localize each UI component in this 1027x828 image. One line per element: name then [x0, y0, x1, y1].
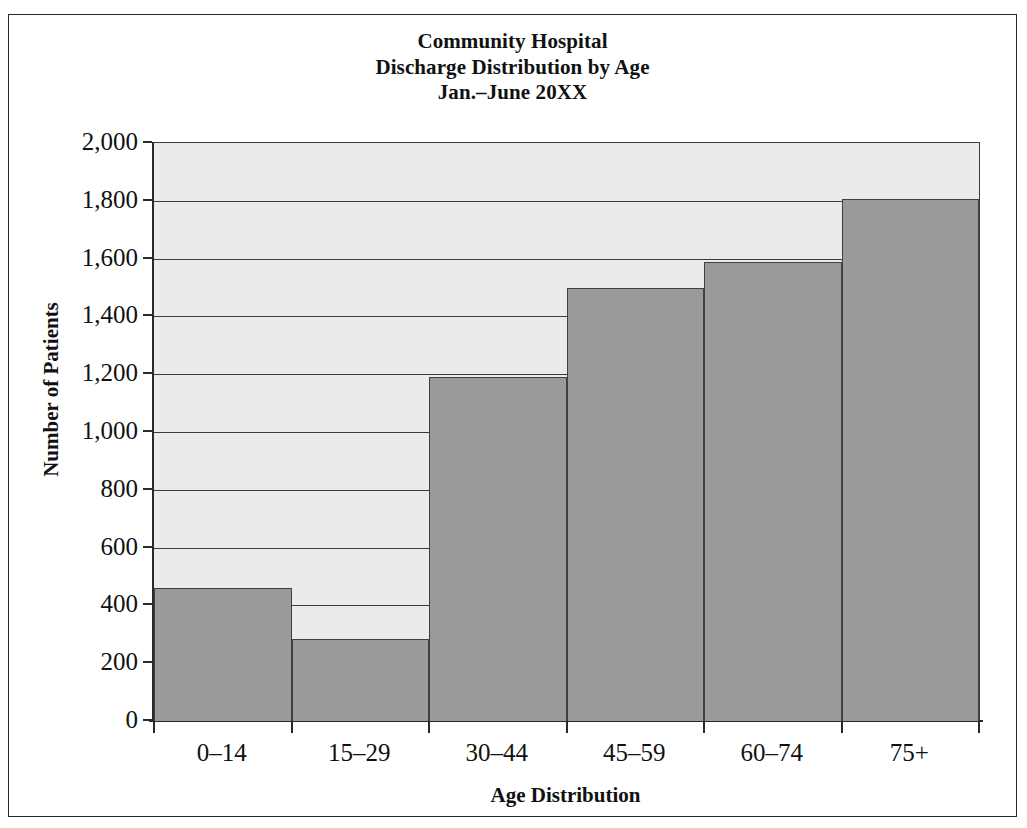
- plot-area: [153, 142, 980, 722]
- y-axis-tick-label: 1,600: [18, 245, 138, 270]
- y-axis-tick-label: 1,800: [18, 187, 138, 212]
- x-axis-tick: [428, 722, 430, 733]
- x-axis-tick-label: 60–74: [692, 738, 852, 768]
- x-axis-tick-label: 75+: [829, 738, 989, 768]
- y-axis-tick-label: 200: [18, 649, 138, 674]
- y-axis-tick-label: 0: [18, 707, 138, 732]
- chart-title-line-2: Discharge Distribution by Age: [9, 55, 1016, 81]
- x-axis-tick: [153, 722, 155, 733]
- y-axis-tick-label: 400: [18, 591, 138, 616]
- bar: [154, 588, 292, 721]
- y-axis-tick: [143, 257, 152, 259]
- figure-frame: Community Hospital Discharge Distributio…: [8, 14, 1017, 817]
- y-axis-tick-label: 1,200: [18, 360, 138, 385]
- x-axis-tick-label: 15–29: [279, 738, 439, 768]
- chart-title: Community Hospital Discharge Distributio…: [9, 29, 1016, 106]
- y-axis-tick: [143, 372, 152, 374]
- bar: [567, 288, 705, 722]
- chart-title-line-3: Jan.–June 20XX: [9, 80, 1016, 106]
- bar: [292, 639, 430, 721]
- bar: [429, 377, 567, 721]
- bar: [842, 199, 980, 721]
- y-axis-tick: [143, 199, 152, 201]
- x-axis-title: Age Distribution: [153, 783, 978, 808]
- y-axis-tick-label: 1,000: [18, 418, 138, 443]
- x-axis-tick-label: 30–44: [417, 738, 577, 768]
- y-axis-tick: [143, 603, 152, 605]
- y-axis-tick: [143, 546, 152, 548]
- y-axis-tick: [143, 430, 152, 432]
- y-axis-tick: [143, 488, 152, 490]
- chart-title-line-1: Community Hospital: [9, 29, 1016, 55]
- y-axis-tick-label: 600: [18, 534, 138, 559]
- bar: [704, 262, 842, 722]
- y-axis-title: Number of Patients: [39, 130, 64, 650]
- x-axis-tick: [841, 722, 843, 733]
- x-axis-tick: [566, 722, 568, 733]
- bars-layer: [154, 143, 979, 721]
- x-axis-tick-label: 0–14: [142, 738, 302, 768]
- y-axis-tick-label: 2,000: [18, 129, 138, 154]
- y-axis-tick: [143, 141, 152, 143]
- y-axis-tick: [143, 314, 152, 316]
- y-axis-tick-label: 1,400: [18, 302, 138, 327]
- x-axis-tick: [291, 722, 293, 733]
- y-axis-tick-label: 800: [18, 476, 138, 501]
- y-axis-tick: [143, 661, 152, 663]
- y-axis-tick-labels: 2,0001,8001,6001,4001,2001,0008006004002…: [9, 142, 138, 722]
- x-axis-tick: [703, 722, 705, 733]
- x-axis-tick-label: 45–59: [554, 738, 714, 768]
- x-axis-tick: [978, 722, 980, 733]
